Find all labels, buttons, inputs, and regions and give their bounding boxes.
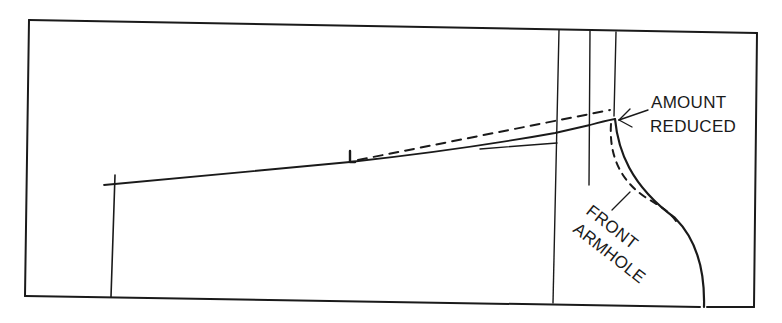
shoulder-line xyxy=(104,119,615,185)
reduced-shoulder-dashed-line xyxy=(358,110,610,160)
amount-reduced-label-line2: REDUCED xyxy=(650,117,736,136)
front-armhole-leader xyxy=(612,192,630,210)
outer-frame xyxy=(25,20,757,307)
amount-reduced-arrow xyxy=(619,109,648,127)
center-front-line xyxy=(111,175,115,297)
reduced-armhole-dashed-curve xyxy=(611,124,676,221)
pattern-diagram: AMOUNT REDUCED FRONT ARMHOLE xyxy=(0,0,782,323)
amount-reduced-label-line1: AMOUNT xyxy=(651,93,726,112)
start-tick-mark xyxy=(350,151,355,162)
